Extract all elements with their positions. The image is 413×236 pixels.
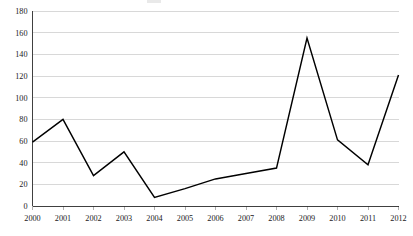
gridline-group — [33, 11, 399, 184]
y-axis-tick-label: 100 — [15, 94, 27, 103]
data-series-line — [33, 38, 399, 197]
x-axis-tick-label: 2010 — [329, 214, 345, 223]
y-axis-tick-label: 40 — [19, 159, 27, 168]
x-axis-tick-label: 2000 — [24, 214, 40, 223]
x-axis-tick-label: 2008 — [268, 214, 284, 223]
x-axis-tick-label: 2009 — [299, 214, 315, 223]
y-axis-tick-label: 80 — [19, 115, 27, 124]
y-axis-tick-label: 120 — [15, 72, 27, 81]
y-axis-tick-label: 60 — [19, 137, 27, 146]
x-axis-tick-label: 2003 — [116, 214, 132, 223]
x-axis-tick-label: 2004 — [146, 214, 162, 223]
line-chart-figure: 020406080100120140160180 200020012002200… — [0, 0, 413, 236]
y-axis-tick-label: 140 — [15, 50, 27, 59]
x-axis-tick-label: 2001 — [55, 214, 71, 223]
x-axis-tick-label: 2007 — [238, 214, 254, 223]
y-axis-tick-label: 160 — [15, 29, 27, 38]
x-axis-tick-label-group: 2000200120022003200420052006200720082009… — [24, 214, 406, 223]
x-axis-tick-label: 2012 — [390, 214, 406, 223]
top-edge-artifact — [147, 0, 161, 3]
y-axis-tick-label-group: 020406080100120140160180 — [15, 7, 27, 211]
chart-canvas: 020406080100120140160180 200020012002200… — [0, 0, 413, 236]
y-axis-tick-label: 0 — [23, 202, 27, 211]
x-axis-tick-label: 2002 — [85, 214, 101, 223]
y-axis-tick-label: 180 — [15, 7, 27, 16]
x-axis-tick-label: 2011 — [360, 214, 376, 223]
x-axis-tick-label: 2005 — [177, 214, 193, 223]
x-axis-tick-label: 2006 — [207, 214, 223, 223]
y-axis-tick-label: 20 — [19, 180, 27, 189]
